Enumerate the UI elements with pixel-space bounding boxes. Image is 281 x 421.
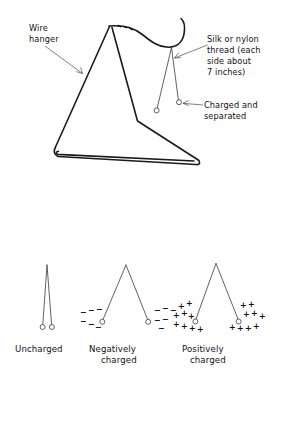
plus-sign: + [240,301,247,310]
minus-sign: − [158,324,165,333]
hanging-threads-top [154,48,181,113]
minus-sign: − [88,306,95,315]
plus-sign: + [181,309,188,318]
plus-sign: + [197,325,204,334]
silk-thread-label-line1: Silk or nylon [207,34,259,44]
charged-separated-label-line2: separated [204,111,246,121]
plus-sign: + [229,323,236,332]
plus-sign: + [186,299,193,308]
wire-hanger-label-line2: hanger [29,34,59,44]
pith-ball-right [177,100,182,105]
diagram-uncharged: Uncharged [15,265,63,354]
wire-hanger-leader [45,46,83,74]
minus-sign: − [80,317,87,326]
silk-thread-label-line3: side about [207,56,252,66]
physics-figure: Wire hanger Silk or nylon thread (each s… [0,0,281,421]
minus-sign: − [95,323,102,332]
charged-separated-label-line1: Charged and [204,100,258,110]
pith-ball-left [40,325,45,330]
plus-sign: + [251,309,258,318]
label-charged-separated: Charged and separated [204,100,258,121]
pith-ball-right [49,325,54,330]
positive-charge-cluster-left: + + + + + + + + + [173,299,204,334]
pith-ball-left [154,108,159,113]
uncharged-label-line1: Uncharged [15,344,63,354]
plus-sign: + [253,322,260,331]
plus-sign: + [237,324,244,333]
positively-charged-label-line2: charged [190,355,226,365]
leader-lines-top [45,45,208,106]
positively-charged-label-line1: Positively [182,344,224,354]
plus-sign: + [188,312,195,321]
plus-sign: + [259,312,266,321]
plus-sign: + [248,300,255,309]
negatively-charged-label-line2: charged [101,355,137,365]
minus-sign: − [96,305,103,314]
diagram-negatively-charged: − − − − − − − − − − − − Negatively charg… [80,265,177,365]
minus-sign: − [162,315,169,324]
minus-sign: − [154,306,161,315]
plus-sign: + [173,311,180,320]
silk-thread-label-line2: thread (each [207,45,261,55]
pith-ball-right [146,319,151,324]
wire-hanger-label-line1: Wire [29,23,48,33]
plus-sign: + [181,322,188,331]
minus-sign: − [80,308,87,317]
minus-sign: − [162,304,169,313]
label-silk-thread: Silk or nylon thread (each side about 7 … [207,34,261,77]
plus-sign: + [245,324,252,333]
silk-thread-leader [175,45,208,58]
positive-charge-cluster-right: + + + + + + + + + [229,300,266,333]
label-wire-hanger: Wire hanger [29,23,59,44]
diagram-positively-charged: + + + + + + + + + + + + + + + + + + [173,264,266,366]
wire-hanger-shape [54,19,199,165]
silk-thread-label-line4: 7 inches) [207,67,245,77]
minus-sign: − [88,320,95,329]
plus-sign: + [189,324,196,333]
negatively-charged-label-line1: Negatively [89,344,136,354]
negative-charge-cluster-left: − − − − − − [80,305,103,332]
plus-sign: + [243,310,250,319]
plus-sign: + [173,320,180,329]
